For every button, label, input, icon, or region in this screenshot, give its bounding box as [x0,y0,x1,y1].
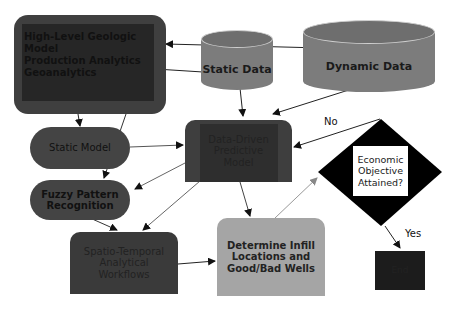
node-static-model-label: Static Model [49,142,111,154]
node-static-model[interactable]: Static Model [30,127,130,169]
node-ddpm-label: Data-Driven Predictive Model [208,134,268,169]
arrow-spatio-to-infill [178,261,215,264]
node-end-label: End [391,265,408,275]
edge-label-yes: Yes [405,228,421,239]
cylinder-top [201,30,273,48]
node-end[interactable]: End [375,251,425,290]
arrow-decision-yes [385,226,400,248]
cylinder-top [303,20,435,44]
node-data-driven-predictive-model[interactable]: Data-Driven Predictive Model [185,120,292,182]
node-geologic-model[interactable]: High-Level Geologic Model Production Ana… [14,15,166,114]
edge-label-no: No [324,116,338,127]
node-spatio-temporal-workflows[interactable]: Spatio-Temporal Analytical Workflows [70,232,178,294]
arrow-ddpm-to-infill [240,182,250,216]
node-static-data[interactable]: Static Data [201,30,273,90]
arrow-infill-to-decision [275,178,317,218]
arrow-geologic-to-static-model [78,114,80,126]
arrow-static-model-to-ddpm [130,145,183,147]
node-dynamic-data[interactable]: Dynamic Data [303,20,435,92]
node-infill-label: Determine Infill Locations and Good/Bad … [227,240,315,275]
node-geologic-label: High-Level Geologic Model Production Ana… [24,31,166,79]
arrow-static-to-ddpm [240,88,243,116]
node-spatio-label: Spatio-Temporal Analytical Workflows [84,246,164,281]
node-static-data-label: Static Data [201,64,273,77]
node-determine-infill[interactable]: Determine Infill Locations and Good/Bad … [217,218,325,296]
arrow-ddpm-to-spatio [143,181,200,230]
node-fuzzy-pattern-recognition[interactable]: Fuzzy Pattern Recognition [30,180,130,220]
node-dynamic-data-label: Dynamic Data [303,61,435,74]
arrow-ddpm-to-fuzzy [135,163,185,189]
node-fuzzy-label: Fuzzy Pattern Recognition [41,189,118,212]
node-decision-label: Economic Objective Attained? [353,146,408,196]
